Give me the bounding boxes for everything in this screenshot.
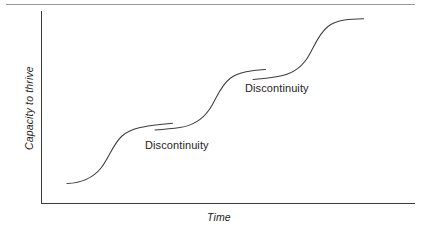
sigmoid-discontinuity-diagram: Capacity to thrive Time Discontinuity Di… xyxy=(0,0,421,230)
x-axis-label: Time xyxy=(207,212,231,223)
plot-area xyxy=(0,0,421,230)
s-curve-segment-1 xyxy=(67,123,173,183)
discontinuity-label-1: Discontinuity xyxy=(145,140,209,151)
s-curve-segment-3 xyxy=(253,19,364,80)
s-curve-segment-2 xyxy=(155,70,266,131)
discontinuity-label-2: Discontinuity xyxy=(245,83,309,94)
y-axis-label: Capacity to thrive xyxy=(24,66,35,150)
